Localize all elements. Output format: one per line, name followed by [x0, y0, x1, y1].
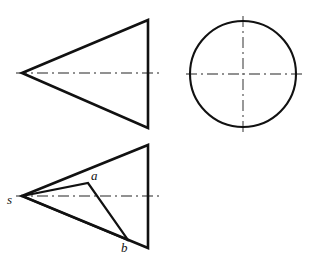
point-label-a: a [91, 169, 98, 182]
front-view-cone-triangle [22, 20, 148, 128]
technical-drawing-canvas: s a b [0, 0, 322, 259]
point-label-s: s [7, 193, 12, 206]
front-view-group [16, 20, 159, 128]
technical-drawing-svg [0, 0, 322, 259]
top-view-group [186, 16, 302, 132]
auxiliary-view-group [16, 145, 159, 248]
point-label-b: b [121, 241, 128, 254]
construction-line-s-a-b [22, 183, 128, 240]
